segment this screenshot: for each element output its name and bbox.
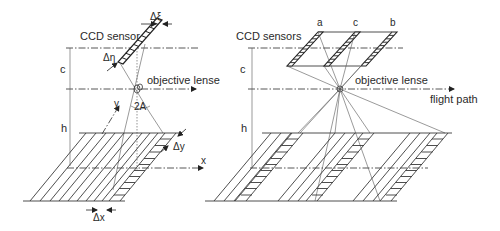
delta-y-label: Δy (173, 141, 185, 152)
c-label: c (60, 63, 66, 75)
y-axis (102, 106, 119, 134)
h-label: h (61, 122, 67, 134)
h-label: h (241, 122, 247, 134)
angle-2a-label: 2A (134, 101, 147, 112)
delta-eta-arrow (107, 63, 117, 71)
left-panel-single-sensor: c h CCD sensor Δξ Δη (23, 11, 220, 223)
objective-lense-label: objective lense (147, 74, 220, 86)
delta-x-label: Δx (93, 212, 105, 223)
y-axis-label: y (114, 98, 119, 109)
sensor-c-label: c (353, 17, 358, 28)
optical-rays (287, 32, 445, 201)
delta-eta-label: Δη (103, 52, 115, 63)
objective-lense-label: objective lense (355, 74, 428, 86)
ccd-sensor-title: CCD sensor (80, 30, 140, 42)
sensor-a-label: a (317, 17, 323, 28)
ground-footprint-strip-3 (380, 133, 448, 201)
delta-xi-label: Δξ (150, 11, 162, 23)
x-axis-label: x (201, 155, 206, 166)
flight-path-label: flight path (430, 93, 478, 105)
ground-hatching (30, 133, 158, 201)
sensor-b-label: b (390, 17, 396, 28)
delta-y-arrow-top (178, 129, 186, 136)
ccd-sensors-title: CCD sensors (236, 30, 302, 42)
right-panel-three-sensors: CCD sensors c h a (205, 17, 478, 201)
ccd-sensor-b (361, 32, 397, 66)
ground-footprint-strip (109, 133, 176, 201)
c-label: c (240, 63, 246, 75)
pushbroom-scanner-diagram: c h CCD sensor Δξ Δη (0, 0, 500, 231)
ground-hatching (214, 133, 430, 201)
ray-1b (148, 110, 163, 133)
ground-footprint-strip-1 (235, 133, 303, 201)
